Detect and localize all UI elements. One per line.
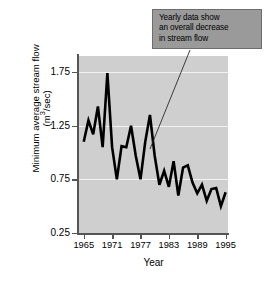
x-tick-1995 xyxy=(226,233,227,239)
y-axis-title-line1: Minimum average stream flow xyxy=(30,44,41,172)
y-tick-1-75 xyxy=(72,72,78,73)
y-tick-0-75 xyxy=(72,179,78,180)
y-tick-label-0-75: 0.75 xyxy=(51,174,70,184)
x-tick-1965 xyxy=(84,233,85,239)
x-tick-1977 xyxy=(140,233,141,239)
y-tick-label-1-75: 1.75 xyxy=(51,67,70,77)
data-series-line xyxy=(79,56,228,233)
x-tick-1971 xyxy=(112,233,113,239)
y-axis-title: Minimum average stream flow (m3/sec) xyxy=(30,18,53,198)
trend-callout-line-3: in stream flow xyxy=(159,34,256,44)
trend-callout-line-2: an overall decrease xyxy=(159,23,256,33)
y-axis-units-exponent: 3 xyxy=(39,111,48,115)
x-tick-1983 xyxy=(169,233,170,239)
y-axis-line xyxy=(77,54,79,235)
y-tick-label-0-25: 0.25 xyxy=(51,228,70,238)
x-axis-title: Year xyxy=(79,257,228,268)
y-tick-1-25 xyxy=(72,126,78,127)
trend-callout-box: Yearly data show an overall decrease in … xyxy=(152,9,262,49)
y-axis-units-prefix: (m xyxy=(41,115,52,126)
trend-callout-line-1: Yearly data show xyxy=(159,13,256,23)
stream-flow-chart-figure: 1.75 1.25 0.75 0.25 1965 1971 1977 1983 … xyxy=(0,0,273,282)
plot-area xyxy=(79,56,228,233)
x-tick-label-1995: 1995 xyxy=(206,240,246,250)
y-tick-0-25 xyxy=(72,233,78,234)
x-tick-1989 xyxy=(197,233,198,239)
y-axis-units-suffix: /sec) xyxy=(41,90,52,111)
y-axis-title-line2: (m3/sec) xyxy=(41,18,52,198)
y-tick-label-1-25: 1.25 xyxy=(51,121,70,131)
x-axis-line xyxy=(77,233,229,235)
